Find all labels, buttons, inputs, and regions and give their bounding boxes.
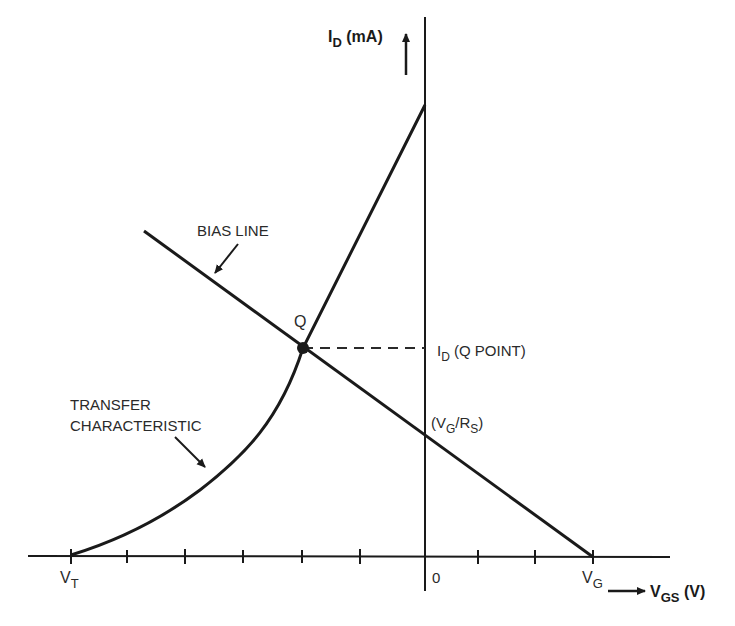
bias-line-label: BIAS LINE xyxy=(197,222,269,239)
transfer-pointer-icon xyxy=(175,437,205,467)
origin-label: 0 xyxy=(432,569,440,586)
q-point-dot xyxy=(297,342,309,354)
id-q-point-label: ID (Q POINT) xyxy=(437,342,526,364)
vg-label: VG xyxy=(582,569,603,591)
transfer-characteristic-diagram: ID (mA) VGS (V) 0 VT VG BIAS LINE Q TRAN… xyxy=(0,0,735,626)
transfer-characteristic-curve xyxy=(71,105,425,555)
vt-label: VT xyxy=(60,569,79,591)
bias-line xyxy=(144,231,593,557)
y-axis-label: ID (mA) xyxy=(328,28,383,50)
transfer-label-line1: TRANSFER xyxy=(70,396,151,413)
vg-rs-intercept-label: (VG/RS) xyxy=(431,414,483,436)
transfer-label-line2: CHARACTERISTIC xyxy=(70,417,202,434)
x-axis-label: VGS (V) xyxy=(650,583,705,605)
bias-line-pointer-icon xyxy=(215,244,238,273)
q-label: Q xyxy=(294,313,306,330)
x-axis xyxy=(28,556,670,557)
